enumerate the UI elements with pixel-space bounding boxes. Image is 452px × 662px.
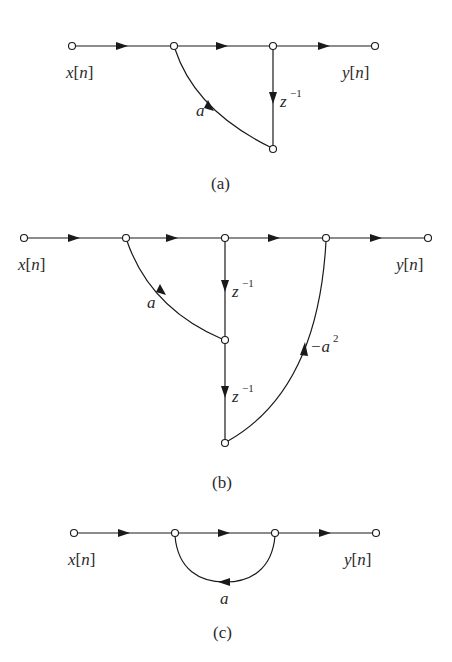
gain-a-label: a xyxy=(196,101,205,120)
input-label: x[n] xyxy=(65,63,93,82)
node-n2 xyxy=(272,530,279,537)
node-output xyxy=(373,530,380,537)
arrow-feedback-icon xyxy=(204,100,214,111)
arrow-right-icon xyxy=(116,42,128,50)
node-n1 xyxy=(172,530,179,537)
node-n4 xyxy=(222,337,229,344)
delay-2-label: z xyxy=(231,387,239,406)
arrow-right-icon xyxy=(370,234,382,242)
node-n3 xyxy=(323,235,330,242)
caption-c: (c) xyxy=(213,623,232,642)
arrow-right-icon xyxy=(216,42,228,50)
branch-feedback-a xyxy=(127,241,222,339)
diagram-c: x[n] y[n] a (c) xyxy=(67,529,380,642)
delay-1-exponent: −1 xyxy=(242,277,254,289)
caption-b: (b) xyxy=(212,473,232,492)
output-label: y[n] xyxy=(340,63,369,82)
arrow-right-icon xyxy=(68,234,80,242)
arrow-down-icon xyxy=(221,280,229,292)
arrow-right-icon xyxy=(218,529,230,537)
node-n1 xyxy=(171,43,178,50)
caption-a: (a) xyxy=(211,174,230,193)
delay-1-label: z xyxy=(231,282,239,301)
node-n2 xyxy=(222,235,229,242)
delay-label: z xyxy=(279,92,287,111)
node-output xyxy=(425,235,432,242)
gain-neg-a2-label: −a xyxy=(310,337,330,356)
node-input xyxy=(69,43,76,50)
arrow-down-icon xyxy=(269,92,277,104)
output-label: y[n] xyxy=(394,255,423,274)
arrow-right-icon xyxy=(166,234,178,242)
gain-neg-a2-exponent: 2 xyxy=(333,332,339,344)
output-label: y[n] xyxy=(342,550,371,569)
node-n1 xyxy=(123,235,130,242)
delay-exponent: −1 xyxy=(290,87,302,99)
arrow-right-icon xyxy=(318,42,330,50)
signal-flow-graphs: x[n] y[n] z −1 a (a) x[n] xyxy=(0,0,452,662)
arrow-right-icon xyxy=(268,234,280,242)
node-output xyxy=(372,43,379,50)
node-input xyxy=(71,530,78,537)
branch-feedback-a xyxy=(175,49,270,147)
branch-feedback-a xyxy=(175,536,275,582)
node-input xyxy=(21,235,28,242)
delay-2-exponent: −1 xyxy=(242,382,254,394)
input-label: x[n] xyxy=(17,255,45,274)
arrow-right-icon xyxy=(319,529,331,537)
node-n3 xyxy=(270,146,277,153)
arrow-down-icon xyxy=(221,386,229,398)
gain-a-label: a xyxy=(220,589,229,608)
input-label: x[n] xyxy=(67,550,95,569)
node-n5 xyxy=(222,440,229,447)
arrow-right-icon xyxy=(118,529,130,537)
node-n2 xyxy=(270,43,277,50)
diagram-b: x[n] y[n] z −1 a z −1 −a 2 (b) xyxy=(17,234,432,492)
gain-a-label: a xyxy=(147,293,156,312)
diagram-a: x[n] y[n] z −1 a (a) xyxy=(65,42,379,193)
arrow-left-icon xyxy=(218,578,230,586)
